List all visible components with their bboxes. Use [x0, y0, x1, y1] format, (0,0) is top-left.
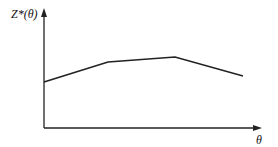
y-axis-label: Z*(θ) — [11, 7, 38, 21]
x-axis-label: θ — [256, 133, 262, 147]
curve-z-star — [44, 57, 243, 82]
x-axis-arrow-icon — [253, 125, 262, 131]
diagram-canvas: Z*(θ) θ — [0, 0, 278, 147]
y-axis-arrow-icon — [41, 8, 47, 17]
